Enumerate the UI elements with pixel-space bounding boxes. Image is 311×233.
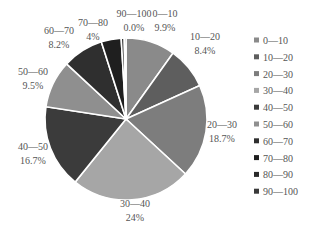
slice-category-label: 0—10	[153, 8, 178, 19]
legend-swatch	[254, 172, 259, 177]
legend-label: 90—100	[263, 186, 298, 197]
legend-swatch	[254, 189, 259, 194]
legend-swatch	[254, 122, 259, 127]
slice-category-label: 60—70	[44, 25, 74, 36]
legend-label: 10—20	[263, 52, 293, 63]
slice-value-label: 0.0%	[124, 22, 145, 33]
slice-category-label: 10—20	[190, 31, 220, 42]
legend-label: 0—10	[263, 35, 288, 46]
legend-label: 60—70	[263, 136, 293, 147]
slice-category-label: 90—100	[117, 8, 152, 19]
pie-chart: 0—109.9%10—208.4%20—3018.7%30—4024%40—50…	[0, 0, 311, 233]
slice-value-label: 18.7%	[209, 133, 235, 144]
legend-swatch	[254, 155, 259, 160]
slice-category-label: 70—80	[78, 17, 108, 28]
slice-value-label: 4%	[86, 31, 99, 42]
legend-label: 40—50	[263, 102, 293, 113]
legend-swatch	[254, 71, 259, 76]
legend-swatch	[254, 88, 259, 93]
legend-swatch	[254, 38, 259, 43]
legend-label: 30—40	[263, 85, 293, 96]
pie-slices	[45, 38, 207, 200]
slice-value-label: 24%	[126, 212, 144, 223]
legend-label: 70—80	[263, 153, 293, 164]
slice-category-label: 40—50	[18, 141, 48, 152]
slice-category-label: 50—60	[18, 66, 48, 77]
slice-value-label: 8.4%	[195, 45, 216, 56]
legend-label: 20—30	[263, 69, 293, 80]
slice-value-label: 16.7%	[20, 155, 46, 166]
slice-category-label: 20—30	[207, 119, 237, 130]
legend-swatch	[254, 105, 259, 110]
legend-swatch	[254, 54, 259, 59]
slice-value-label: 8.2%	[49, 39, 70, 50]
slice-value-label: 9.9%	[155, 22, 176, 33]
legend-label: 50—60	[263, 119, 293, 130]
legend-label: 80—90	[263, 169, 293, 180]
slice-value-label: 9.5%	[23, 80, 44, 91]
slice-category-label: 30—40	[120, 198, 150, 209]
legend: 0—1010—2020—3030—4040—5050—6060—7070—808…	[254, 35, 298, 197]
legend-swatch	[254, 138, 259, 143]
